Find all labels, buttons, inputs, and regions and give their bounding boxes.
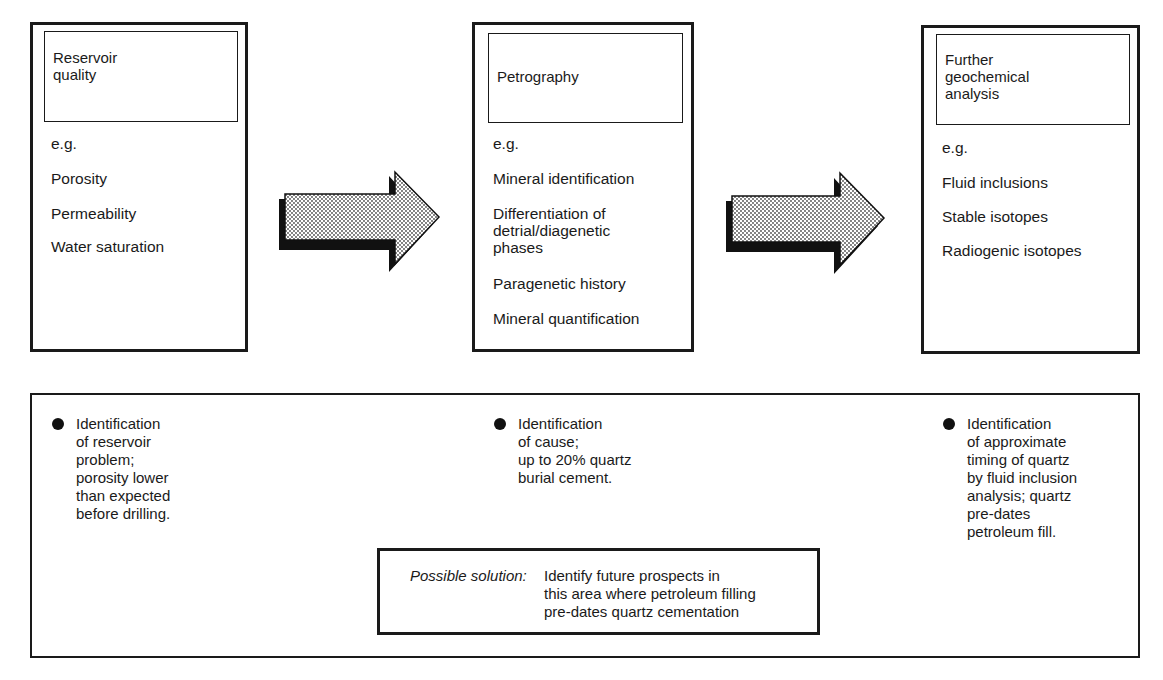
stage-title-line: Petrography <box>497 68 579 85</box>
stage-title-line: analysis <box>945 85 1029 102</box>
solution-text: Identify future prospects in this area w… <box>544 567 756 621</box>
stage-box-geochemical-analysis: Further geochemical analysis e.g. Fluid … <box>921 25 1140 354</box>
example-item: Radiogenic isotopes <box>942 242 1082 260</box>
example-item: Porosity <box>51 170 107 188</box>
example-item: Stable isotopes <box>942 208 1048 226</box>
stage-title-box: Reservoir quality <box>44 31 238 122</box>
stage-title-line: geochemical <box>945 68 1029 85</box>
example-item: Differentiation of <box>493 205 606 223</box>
stage-title-line: Further <box>945 51 1029 68</box>
finding-text: Identification of approximate timing of … <box>967 415 1077 541</box>
eg-label: e.g. <box>493 135 519 153</box>
example-item: Mineral quantification <box>493 310 639 328</box>
stage-title-box: Further geochemical analysis <box>936 34 1130 125</box>
bullet-icon <box>494 418 506 430</box>
example-item: Paragenetic history <box>493 275 626 293</box>
example-item: Permeability <box>51 205 136 223</box>
stage-box-petrography: Petrography e.g. Mineral identification … <box>472 22 694 352</box>
example-item: Fluid inclusions <box>942 174 1048 192</box>
stage-box-reservoir-quality: Reservoir quality e.g. Porosity Permeabi… <box>30 22 248 352</box>
example-item: phases <box>493 239 543 257</box>
stage-title: Further geochemical analysis <box>945 51 1029 102</box>
finding-text: Identification of cause; up to 20% quart… <box>518 415 631 487</box>
example-item: detrial/diagenetic <box>493 222 610 240</box>
example-item: Water saturation <box>51 238 164 256</box>
bullet-icon <box>943 418 955 430</box>
stage-title: Reservoir quality <box>53 49 117 83</box>
right-arrow-icon <box>275 168 445 278</box>
stage-title-line: Reservoir <box>53 49 117 66</box>
solution-label: Possible solution: <box>410 567 527 585</box>
eg-label: e.g. <box>942 139 968 157</box>
stage-title-line: quality <box>53 66 117 83</box>
eg-label: e.g. <box>51 135 77 153</box>
right-arrow-icon <box>722 168 892 278</box>
finding-text: Identification of reservoir problem; por… <box>76 415 170 523</box>
stage-title-box: Petrography <box>488 33 683 123</box>
example-item: Mineral identification <box>493 170 634 188</box>
bullet-icon <box>52 418 64 430</box>
stage-title: Petrography <box>497 68 579 85</box>
possible-solution-box: Possible solution: Identify future prosp… <box>377 548 820 635</box>
